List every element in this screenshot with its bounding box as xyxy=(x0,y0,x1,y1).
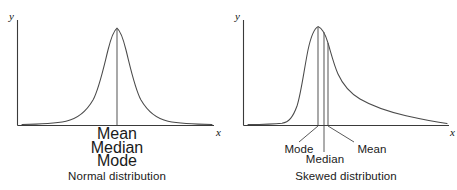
normal-stat-mode: Mode xyxy=(77,154,157,168)
skewed-mode-leader xyxy=(299,126,318,142)
normal-y-axis-label: y xyxy=(9,10,14,22)
distributions-figure xyxy=(0,0,457,190)
skewed-panel-caption: Skewed distribution xyxy=(285,170,407,182)
skewed-curve xyxy=(248,27,447,125)
normal-stat-labels: Mean Median Mode xyxy=(77,127,157,168)
normal-distribution-panel xyxy=(18,20,215,126)
normal-x-axis-label: x xyxy=(216,126,221,138)
skewed-x-axis-label: x xyxy=(450,126,455,138)
skewed-mean-leader xyxy=(328,126,354,142)
skewed-stat-mean: Mean xyxy=(345,143,399,155)
skewed-distribution-panel xyxy=(244,20,450,152)
normal-panel-caption: Normal distribution xyxy=(57,170,177,182)
skewed-y-axis-label: y xyxy=(235,10,240,22)
